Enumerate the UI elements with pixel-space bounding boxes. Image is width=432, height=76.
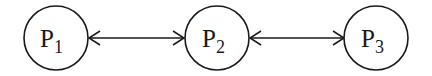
- process-diagram: P1 P2 P3: [0, 0, 432, 76]
- node-p1: P1: [24, 6, 88, 70]
- edge-p2-p3: [250, 31, 344, 45]
- edge-p1-p2: [89, 31, 184, 45]
- node-p3: P3: [344, 6, 408, 70]
- node-p2: P2: [185, 6, 249, 70]
